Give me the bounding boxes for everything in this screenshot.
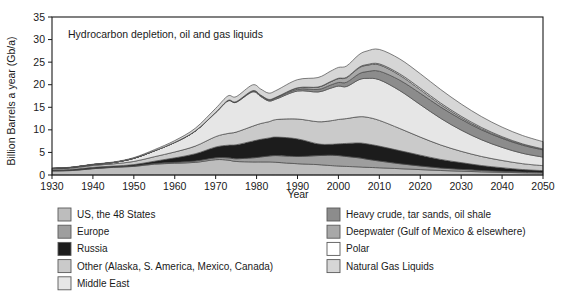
legend-label: US, the 48 States [77, 209, 155, 220]
legend-item: Other (Alaska, S. America, Mexico, Canad… [58, 260, 273, 273]
x-tick-label: 2050 [531, 180, 555, 192]
legend-item: Polar [327, 242, 370, 255]
legend-item: Deepwater (Gulf of Mexico & elsewhere) [327, 225, 526, 238]
legend-label: Deepwater (Gulf of Mexico & elsewhere) [346, 226, 526, 237]
legend-label: Other (Alaska, S. America, Mexico, Canad… [77, 261, 273, 272]
legend-item: Europe [58, 225, 110, 238]
y-tick-label: 30 [33, 33, 45, 45]
x-axis-title: Year [287, 188, 309, 200]
hydrocarbon-depletion-chart: 05101520253035 1930194019501960197019801… [0, 0, 565, 306]
legend-swatch [327, 242, 340, 255]
legend-swatch [58, 277, 71, 290]
x-tick-label: 2030 [449, 180, 473, 192]
legend-item: Heavy crude, tar sands, oil shale [327, 208, 492, 221]
y-tick-label: 35 [33, 11, 45, 23]
x-tick-label: 1980 [245, 180, 269, 192]
legend-swatch [58, 208, 71, 221]
x-tick-label: 1960 [163, 180, 187, 192]
y-tick-label: 20 [33, 78, 45, 90]
x-tick-label: 2010 [368, 180, 392, 192]
legend-swatch [327, 225, 340, 238]
legend-label: Middle East [77, 278, 129, 289]
y-tick-label: 0 [39, 169, 45, 181]
y-tick-label: 10 [33, 123, 45, 135]
x-tick-label: 1930 [40, 180, 64, 192]
x-tick-label: 2000 [327, 180, 351, 192]
legend-swatch [58, 242, 71, 255]
legend-label: Natural Gas Liquids [346, 261, 434, 272]
legend-swatch [327, 260, 340, 273]
x-tick-label: 1970 [204, 180, 228, 192]
legend-label: Heavy crude, tar sands, oil shale [346, 209, 492, 220]
x-tick-label: 2020 [409, 180, 433, 192]
legend-item: Middle East [58, 277, 129, 290]
y-tick-label: 25 [33, 56, 45, 68]
legend-label: Russia [77, 243, 108, 254]
legend-item: Russia [58, 242, 108, 255]
x-tick-label: 2040 [490, 180, 514, 192]
x-tick-label: 1940 [81, 180, 105, 192]
legend-label: Europe [77, 226, 110, 237]
chart-title: Hydrocarbon depletion, oil and gas liqui… [68, 28, 263, 40]
legend-swatch [58, 260, 71, 273]
legend-swatch [327, 208, 340, 221]
y-tick-label: 5 [39, 146, 45, 158]
legend-label: Polar [346, 243, 370, 254]
x-tick-label: 1950 [122, 180, 146, 192]
y-tick-label: 15 [33, 101, 45, 113]
y-axis-title: Billion Barrels a year (Gb/a) [5, 37, 17, 166]
legend-swatch [58, 225, 71, 238]
